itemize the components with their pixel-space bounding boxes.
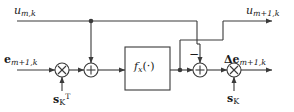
- junction-post-function-dot: [178, 68, 183, 73]
- label-delta-e-output-base: Δe: [224, 53, 240, 66]
- label-e-input: em+1,k: [4, 54, 37, 67]
- label-s-vector-sub: K: [233, 97, 239, 106]
- junction-top-tap-dot: [89, 19, 94, 24]
- label-e-input-base: e: [4, 53, 11, 66]
- label-u-output: um+1,k: [246, 5, 280, 18]
- label-s-transpose-sup: T: [65, 92, 70, 101]
- label-u-output-sub: m+1,k: [253, 9, 279, 18]
- label-delta-e-output-sub: m+1,k: [240, 58, 266, 67]
- label-s-vector: sK: [227, 93, 239, 106]
- label-delta-e-output: Δem+1,k: [224, 54, 266, 67]
- label-s-transpose: sKT: [53, 93, 70, 107]
- label-function: fx(·): [134, 61, 155, 74]
- label-minus-sign: −: [189, 48, 199, 60]
- label-e-input-sub: m+1,k: [11, 58, 37, 67]
- block-diagram: um,k um+1,k em+1,k Δem+1,k sKT sK fx(·) …: [0, 0, 294, 112]
- label-u-input: um,k: [14, 5, 36, 18]
- label-u-input-sub: m,k: [21, 9, 36, 18]
- label-function-arg: (·): [143, 60, 155, 73]
